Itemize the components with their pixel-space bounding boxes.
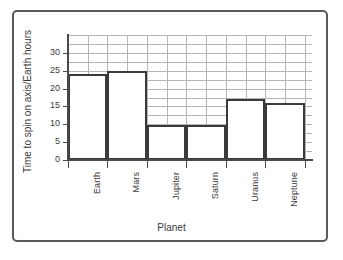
bar-earth [68, 74, 107, 160]
y-tick-label: 15 [36, 101, 60, 110]
x-tick-mark [265, 161, 266, 168]
gridline-horizontal [68, 44, 312, 45]
y-tick-mark [63, 53, 69, 54]
bar-chart-figure: 051015202530 EarthMarsJupiterSaturnUranu… [0, 0, 343, 260]
y-tick-label-wrap: 25 [36, 66, 60, 75]
x-category-label-earth: Earth [92, 172, 102, 194]
y-tick-mark [63, 89, 69, 90]
y-axis-title: Time to spin on axis/Earth hours [22, 30, 33, 173]
y-tick-label: 25 [36, 66, 60, 75]
y-tick-label: 5 [36, 137, 60, 146]
x-category-label-mars: Mars [131, 172, 141, 192]
y-tick-mark [63, 106, 69, 107]
bar-uranus [226, 99, 265, 160]
bar-jupiter [147, 125, 186, 160]
y-tick-label-wrap: 30 [36, 48, 60, 57]
x-tick-mark [305, 161, 306, 168]
x-tick-mark [226, 161, 227, 168]
y-tick-label-wrap: 0 [36, 155, 60, 164]
bar-saturn [186, 125, 225, 160]
gridline-vertical [305, 35, 306, 160]
y-tick-label-wrap: 15 [36, 101, 60, 110]
gridline-horizontal [68, 35, 312, 36]
x-category-label-saturn: Saturn [210, 172, 220, 199]
y-tick-label: 30 [36, 48, 60, 57]
y-tick-label-wrap: 5 [36, 137, 60, 146]
y-tick-label-wrap: 20 [36, 84, 60, 93]
y-tick-mark [63, 71, 69, 72]
y-tick-mark [63, 142, 69, 143]
y-tick-label: 10 [36, 119, 60, 128]
x-tick-mark [107, 161, 108, 168]
y-tick-label: 20 [36, 84, 60, 93]
y-tick-mark [63, 124, 69, 125]
x-tick-mark [186, 161, 187, 168]
bar-mars [107, 71, 146, 160]
y-tick-label-wrap: 10 [36, 119, 60, 128]
y-tick-label: 0 [36, 155, 60, 164]
x-tick-mark [147, 161, 148, 168]
x-axis-title: Planet [0, 222, 343, 233]
x-axis-line [67, 159, 313, 161]
x-category-label-neptune: Neptune [289, 172, 299, 207]
gridline-horizontal [68, 71, 312, 72]
gridline-horizontal [68, 53, 312, 54]
gridline-horizontal [68, 62, 312, 63]
x-tick-mark [68, 161, 69, 168]
plot-area [68, 35, 312, 160]
x-category-label-jupiter: Jupiter [171, 172, 181, 200]
bar-neptune [265, 103, 304, 160]
x-category-label-uranus: Uranus [250, 172, 260, 202]
